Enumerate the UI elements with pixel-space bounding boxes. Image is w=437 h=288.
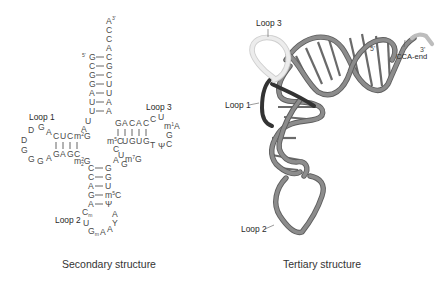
nucleotide: G bbox=[53, 149, 60, 159]
loop3-label: Loop 3 bbox=[146, 102, 172, 112]
nucleotide: G bbox=[38, 122, 45, 132]
tertiary-loop1-label: Loop 1 bbox=[225, 100, 251, 110]
nucleotide: Gm bbox=[88, 226, 99, 237]
three-prime-label: 3' bbox=[112, 15, 116, 21]
variable-loop: C U m7G G A bbox=[113, 144, 142, 169]
nucleotide: G bbox=[67, 149, 74, 159]
nucleotide: G bbox=[129, 136, 136, 146]
secondary-structure-panel: A 3' C C A 5' G C G G A U U C G C U bbox=[21, 15, 180, 270]
secondary-structure-caption: Secondary structure bbox=[62, 258, 156, 270]
nucleotide: C bbox=[143, 118, 149, 128]
nucleotide: A bbox=[60, 149, 66, 159]
nucleotide: Ψ bbox=[105, 199, 112, 209]
nucleotide: A bbox=[46, 127, 52, 137]
d-arm: Loop 1 U A C U C m2G G A G C A G D D G G bbox=[21, 112, 91, 167]
trna-figure: A 3' C C A 5' G C G G A U U C G C U bbox=[0, 0, 437, 288]
nucleotide: U bbox=[122, 136, 128, 146]
acceptor-stem: 5' G C G G A U U C G C U U A A bbox=[82, 52, 113, 116]
nucleotide: G bbox=[143, 136, 150, 146]
nucleotide: Y bbox=[112, 218, 118, 228]
loop1-label: Loop 1 bbox=[29, 112, 55, 122]
nucleotide: D bbox=[28, 125, 34, 135]
nucleotide: m2G bbox=[74, 131, 91, 141]
tertiary-five-prime-label: 5' bbox=[370, 45, 375, 52]
nucleotide: Ψ bbox=[158, 141, 165, 151]
nucleotide: G bbox=[37, 156, 44, 166]
nucleotide: C bbox=[129, 118, 135, 128]
nucleotide: C bbox=[53, 131, 59, 141]
nucleotide: A bbox=[113, 155, 119, 165]
nucleotide: C bbox=[166, 139, 172, 149]
nucleotide: C bbox=[150, 114, 156, 124]
nucleotide: G bbox=[28, 154, 35, 164]
nucleotide: A bbox=[122, 118, 128, 128]
anticodon-loop: Loop 2 Cm U Gm A A Y A bbox=[55, 207, 118, 237]
nucleotide: A bbox=[106, 106, 112, 116]
cca-end-label: CCA-end bbox=[396, 52, 427, 61]
nucleotide: U bbox=[136, 136, 142, 146]
anticodon-stem: C C A G A G G U m5C Ψ bbox=[88, 163, 121, 209]
nucleotide: G bbox=[121, 159, 128, 169]
nucleotide: D bbox=[21, 135, 27, 145]
loop2-label: Loop 2 bbox=[55, 215, 81, 225]
tertiary-loop2-label: Loop 2 bbox=[241, 224, 267, 234]
nucleotide: A bbox=[136, 118, 142, 128]
nucleotide: A bbox=[100, 227, 106, 237]
nucleotide: C bbox=[67, 131, 73, 141]
nucleotide: A bbox=[112, 209, 118, 219]
tertiary-loop3-label: Loop 3 bbox=[256, 18, 282, 28]
tertiary-structure-caption: Tertiary structure bbox=[283, 258, 361, 270]
nucleotide: U bbox=[89, 106, 95, 116]
nucleotide: A bbox=[88, 199, 94, 209]
nucleotide: A bbox=[46, 153, 52, 163]
nucleotide: T bbox=[150, 140, 156, 150]
tertiary-structure-panel: Loop 3 Loop 1 Loop 2 5' 3' CCA-end Terti… bbox=[225, 18, 432, 270]
nucleotide: G bbox=[115, 118, 122, 128]
acceptor-overhang: A 3' C C A bbox=[106, 15, 116, 53]
nucleotide: G bbox=[21, 145, 28, 155]
five-prime-label: 5' bbox=[82, 52, 86, 58]
nucleotide: U bbox=[60, 131, 66, 141]
backbone bbox=[272, 37, 414, 232]
